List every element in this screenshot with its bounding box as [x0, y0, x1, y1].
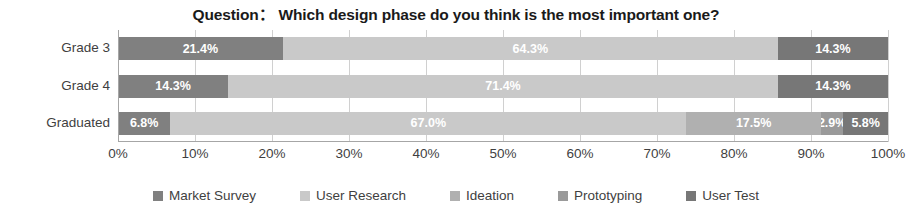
x-axis-tick-label: 30%: [335, 146, 362, 161]
bar-row: 6.8%67.0%17.5%2.9%5.8%: [118, 112, 888, 135]
bar-segment-value-label: 14.3%: [815, 79, 850, 93]
x-axis-tick-label: 50%: [489, 146, 516, 161]
bar-segment[interactable]: 6.8%: [118, 112, 170, 135]
bar-row: 14.3%71.4%14.3%: [118, 75, 888, 98]
legend-label: Prototyping: [574, 188, 642, 203]
legend-swatch-icon: [558, 191, 568, 201]
legend-item[interactable]: User Test: [686, 188, 759, 203]
legend-label: Market Survey: [169, 188, 256, 203]
x-axis-tick-label: 20%: [258, 146, 285, 161]
legend-label: User Research: [316, 188, 406, 203]
legend-swatch-icon: [300, 191, 310, 201]
y-axis-line: [118, 30, 119, 142]
x-axis-tick-label: 100%: [871, 146, 906, 161]
legend-item[interactable]: User Research: [300, 188, 406, 203]
plot-area: 21.4%64.3%14.3%14.3%71.4%14.3%6.8%67.0%1…: [118, 30, 888, 142]
bar-segment-value-label: 14.3%: [815, 42, 850, 56]
bar-segment[interactable]: 14.3%: [778, 75, 888, 98]
bar-segment-value-label: 64.3%: [513, 42, 548, 56]
chart-title: Question： Which design phase do you thin…: [0, 2, 912, 24]
x-axis-tick-label: 90%: [797, 146, 824, 161]
bar-segment-value-label: 21.4%: [183, 42, 218, 56]
y-axis-category-label: Grade 4: [2, 78, 110, 93]
chart-legend: Market SurveyUser ResearchIdeationProtot…: [0, 188, 912, 203]
legend-label: Ideation: [466, 188, 514, 203]
legend-swatch-icon: [686, 191, 696, 201]
y-axis-category-label: Graduated: [2, 115, 110, 130]
legend-item[interactable]: Prototyping: [558, 188, 642, 203]
gridline: [888, 30, 889, 142]
y-axis-category-label: Grade 3: [2, 40, 110, 55]
x-axis-tick-label: 40%: [412, 146, 439, 161]
bar-segment-value-label: 71.4%: [485, 79, 520, 93]
legend-swatch-icon: [450, 191, 460, 201]
bar-segment-value-label: 17.5%: [736, 116, 771, 130]
x-axis-tick-label: 70%: [643, 146, 670, 161]
x-axis-tick-label: 10%: [181, 146, 208, 161]
legend-label: User Test: [702, 188, 759, 203]
bar-segment-value-label: 6.8%: [130, 116, 159, 130]
bar-segment[interactable]: 14.3%: [118, 75, 228, 98]
bar-segment[interactable]: 64.3%: [283, 37, 778, 60]
bar-segment[interactable]: 2.9%: [821, 112, 843, 135]
bar-segment-value-label: 14.3%: [155, 79, 190, 93]
bar-row: 21.4%64.3%14.3%: [118, 37, 888, 60]
bar-segment[interactable]: 17.5%: [686, 112, 821, 135]
x-axis-tick-label: 80%: [720, 146, 747, 161]
bar-segment[interactable]: 67.0%: [170, 112, 686, 135]
bar-segment[interactable]: 71.4%: [228, 75, 778, 98]
legend-item[interactable]: Ideation: [450, 188, 514, 203]
stacked-bar-chart: Question： Which design phase do you thin…: [0, 0, 912, 224]
bar-segment[interactable]: 21.4%: [118, 37, 283, 60]
legend-swatch-icon: [153, 191, 163, 201]
x-axis-tick-label: 60%: [566, 146, 593, 161]
bar-segment-value-label: 2.9%: [821, 116, 843, 130]
x-axis-tick-labels: 0%10%20%30%40%50%60%70%80%90%100%: [118, 146, 888, 166]
y-axis-category-labels: Grade 3Grade 4Graduated: [0, 30, 110, 142]
bar-segment-value-label: 5.8%: [851, 116, 880, 130]
bar-segment[interactable]: 14.3%: [778, 37, 888, 60]
x-axis-tick-label: 0%: [108, 146, 128, 161]
bar-segment-value-label: 67.0%: [411, 116, 446, 130]
x-axis-line: [118, 141, 888, 142]
legend-item[interactable]: Market Survey: [153, 188, 256, 203]
bar-segment[interactable]: 5.8%: [843, 112, 888, 135]
